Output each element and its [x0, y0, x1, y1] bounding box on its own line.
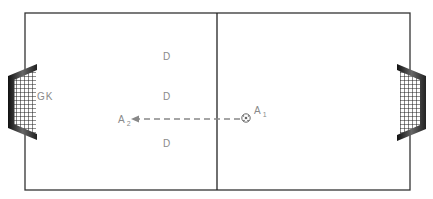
pass-arrow [131, 116, 240, 123]
goalkeeper-label: GK [37, 92, 53, 102]
ball-icon [242, 114, 250, 122]
defender-label-top: D [163, 52, 171, 62]
attacker2-label: A2 [118, 115, 132, 126]
right-goal [397, 64, 426, 141]
defender-label-middle: D [163, 92, 171, 102]
attacker1-label: A1 [254, 106, 268, 117]
left-goal [8, 64, 37, 140]
attacker2-main: A [118, 114, 126, 125]
attacker1-sub: 1 [263, 111, 268, 118]
attacker2-sub: 2 [127, 120, 132, 127]
defender-label-bottom: D [163, 139, 171, 149]
attacker1-main: A [254, 105, 262, 116]
pitch-diagram [0, 0, 433, 199]
